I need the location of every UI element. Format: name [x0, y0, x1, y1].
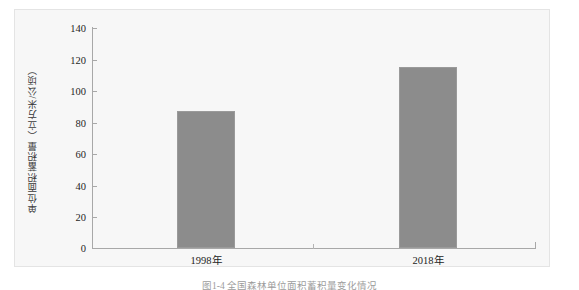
y-tick-mark: [92, 154, 97, 155]
y-tick-mark: [92, 28, 97, 29]
x-axis-mid-tick: [313, 244, 314, 249]
x-axis-line: [92, 248, 536, 249]
y-tick-mark: [92, 123, 97, 124]
y-tick-label: 120: [42, 55, 86, 66]
y-tick-label: 40: [42, 181, 86, 192]
x-axis-end-cap: [535, 242, 536, 249]
y-tick-label: 80: [42, 118, 86, 129]
bar-2018[interactable]: [399, 67, 457, 248]
y-tick-label: 100: [42, 86, 86, 97]
y-tick-label: 140: [42, 23, 86, 34]
y-tick-mark: [92, 186, 97, 187]
figure-caption: 图1-4 全国森林单位面积蓄积量变化情况: [0, 278, 579, 290]
y-tick-mark: [92, 91, 97, 92]
y-tick-label: 60: [42, 149, 86, 160]
bar-1998[interactable]: [177, 111, 235, 248]
y-axis-tick-labels: 0 20 40 60 80 100 120 140: [38, 0, 86, 290]
y-tick-label: 20: [42, 212, 86, 223]
figure-container: 单位面积蓄积量（立方米/公顷） 0 20 40 60 80 100 120 14…: [0, 0, 579, 290]
x-category-label-2018: 2018年: [368, 252, 488, 267]
y-tick-mark: [92, 217, 97, 218]
y-tick-mark: [92, 248, 97, 249]
x-category-label-1998: 1998年: [146, 252, 266, 267]
y-tick-label: 0: [42, 243, 86, 254]
chart-panel: [14, 9, 550, 267]
y-tick-mark: [92, 60, 97, 61]
